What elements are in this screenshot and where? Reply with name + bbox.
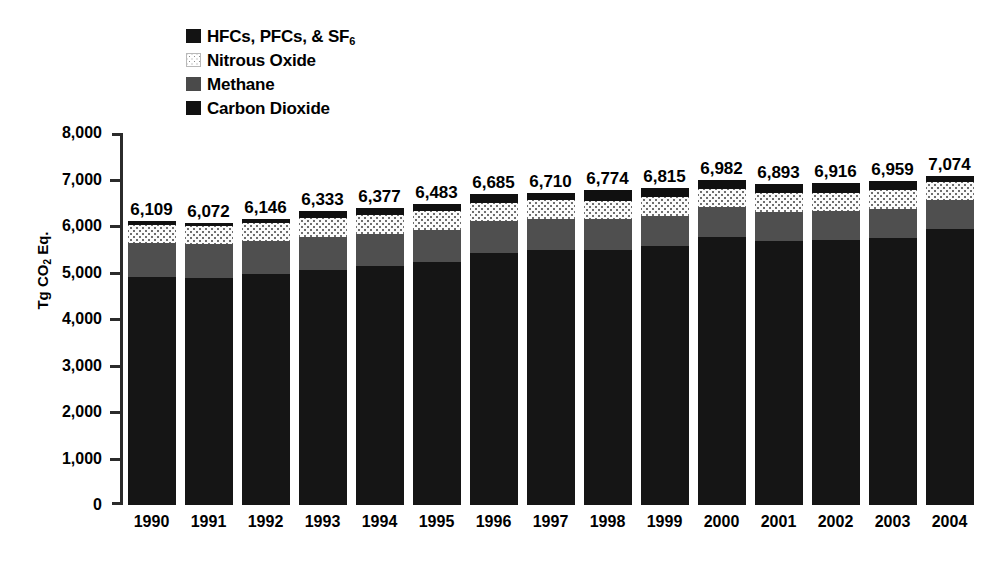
y-tick-label: 2,000 (62, 404, 102, 420)
bar-segment-methane (128, 243, 176, 277)
bar-total-label: 6,815 (643, 168, 686, 185)
bar-column[interactable]: 6,377 (356, 133, 404, 505)
x-tick-label: 1990 (134, 514, 170, 530)
bar-segment-methane (527, 219, 575, 250)
bar-column[interactable]: 6,333 (299, 133, 347, 505)
bar-segment-nitrous-oxide (299, 218, 347, 237)
bar-total-label: 6,377 (358, 188, 401, 205)
legend-swatch-nitrous-oxide-icon (186, 53, 201, 67)
plot-area: 6,1096,0726,1466,3336,3776,4836,6856,710… (123, 133, 978, 505)
bar-segment-carbon-dioxide (698, 237, 746, 505)
bar-total-label: 6,893 (757, 164, 800, 181)
bar-total-label: 6,774 (586, 170, 629, 187)
bar-segment-methane (584, 219, 632, 250)
bar-segment-hfc-pfc-sf6 (413, 204, 461, 212)
bar-total-label: 6,072 (187, 203, 230, 220)
bar-segment-methane (470, 221, 518, 253)
bar-segment-carbon-dioxide (584, 250, 632, 505)
x-tick-label: 2001 (761, 514, 797, 530)
bar-segment-methane (356, 234, 404, 267)
chart-legend: HFCs, PFCs, & SF6Nitrous OxideMethaneCar… (186, 24, 516, 120)
bar-total-label: 7,074 (928, 156, 971, 173)
bar-segment-nitrous-oxide (242, 223, 290, 241)
bar-column[interactable]: 7,074 (926, 133, 974, 505)
bar-column[interactable]: 6,774 (584, 133, 632, 505)
bar-segment-nitrous-oxide (641, 197, 689, 216)
bar-segment-carbon-dioxide (413, 262, 461, 505)
legend-swatch-methane-icon (186, 77, 201, 91)
bar-segment-carbon-dioxide (926, 229, 974, 505)
x-tick-label: 1992 (248, 514, 284, 530)
legend-label-nitrous-oxide: Nitrous Oxide (207, 52, 316, 69)
bar-segment-carbon-dioxide (869, 238, 917, 505)
y-axis-tick (110, 272, 121, 275)
y-axis-tick (110, 179, 121, 182)
bar-column[interactable]: 6,982 (698, 133, 746, 505)
bar-segment-methane (299, 237, 347, 270)
bar-total-label: 6,146 (244, 199, 287, 216)
bar-column[interactable]: 6,072 (185, 133, 233, 505)
bar-column[interactable]: 6,710 (527, 133, 575, 505)
bar-column[interactable]: 6,959 (869, 133, 917, 505)
bar-segment-carbon-dioxide (527, 250, 575, 505)
bar-segment-carbon-dioxide (242, 274, 290, 505)
y-axis-tick-labels: 01,0002,0003,0004,0005,0006,0007,0008,00… (34, 0, 102, 568)
bar-total-label: 6,483 (415, 184, 458, 201)
legend-item-nitrous-oxide[interactable]: Nitrous Oxide (186, 48, 516, 72)
bar-segment-nitrous-oxide (185, 226, 233, 244)
bar-segment-hfc-pfc-sf6 (698, 180, 746, 188)
bar-segment-methane (869, 209, 917, 238)
legend-label-methane: Methane (207, 76, 275, 93)
x-tick-label: 1993 (305, 514, 341, 530)
bar-total-label: 6,685 (472, 174, 515, 191)
bar-column[interactable]: 6,146 (242, 133, 290, 505)
bar-total-label: 6,109 (130, 201, 173, 218)
y-axis-top-cap (112, 133, 123, 136)
bar-total-label: 6,333 (301, 191, 344, 208)
bar-column[interactable]: 6,815 (641, 133, 689, 505)
y-axis-tick (110, 458, 121, 461)
bar-segment-carbon-dioxide (755, 241, 803, 505)
legend-swatch-hfc-pfc-sf6-icon (186, 29, 201, 43)
bar-segment-carbon-dioxide (185, 278, 233, 505)
bar-segment-hfc-pfc-sf6 (812, 183, 860, 192)
x-tick-label: 2004 (932, 514, 968, 530)
x-tick-label: 2000 (704, 514, 740, 530)
bar-segment-hfc-pfc-sf6 (527, 193, 575, 200)
bar-segment-nitrous-oxide (470, 203, 518, 222)
y-tick-label: 6,000 (62, 218, 102, 234)
bar-column[interactable]: 6,916 (812, 133, 860, 505)
bar-segment-nitrous-oxide (584, 201, 632, 220)
legend-item-methane[interactable]: Methane (186, 72, 516, 96)
bar-segment-methane (755, 212, 803, 242)
y-axis-tick (110, 318, 121, 321)
bar-segment-nitrous-oxide (356, 215, 404, 233)
bar-column[interactable]: 6,109 (128, 133, 176, 505)
bar-segment-nitrous-oxide (755, 193, 803, 211)
bar-total-label: 6,959 (871, 161, 914, 178)
bar-segment-methane (698, 207, 746, 237)
y-tick-label: 0 (93, 497, 102, 513)
y-axis-bottom-cap (112, 502, 123, 505)
x-tick-label: 1991 (191, 514, 227, 530)
bar-segment-nitrous-oxide (527, 200, 575, 219)
legend-item-carbon-dioxide[interactable]: Carbon Dioxide (186, 96, 516, 120)
y-axis-tick (110, 411, 121, 414)
bar-segment-hfc-pfc-sf6 (641, 188, 689, 197)
bar-segment-methane (641, 216, 689, 246)
bar-column[interactable]: 6,893 (755, 133, 803, 505)
bar-segment-nitrous-oxide (413, 211, 461, 230)
bar-column[interactable]: 6,685 (470, 133, 518, 505)
y-tick-label: 7,000 (62, 172, 102, 188)
y-tick-label: 8,000 (62, 125, 102, 141)
x-axis-tick-labels: 1990199119921993199419951996199719981999… (123, 514, 978, 544)
bar-total-label: 6,710 (529, 173, 572, 190)
bar-segment-hfc-pfc-sf6 (755, 184, 803, 193)
bar-segment-hfc-pfc-sf6 (470, 194, 518, 203)
bar-segment-carbon-dioxide (470, 253, 518, 505)
legend-label-hfc-pfc-sf6: HFCs, PFCs, & SF6 (207, 28, 355, 45)
bar-column[interactable]: 6,483 (413, 133, 461, 505)
y-tick-label: 5,000 (62, 265, 102, 281)
legend-item-hfc-pfc-sf6[interactable]: HFCs, PFCs, & SF6 (186, 24, 516, 48)
stacked-bar-chart: HFCs, PFCs, & SF6Nitrous OxideMethaneCar… (0, 0, 1003, 568)
